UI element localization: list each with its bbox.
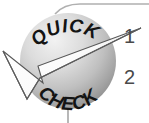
callout-label-2: 2	[124, 67, 135, 87]
quick-check-illustration: QUICK CHECK	[0, 0, 149, 123]
callout-label-1: 1	[124, 26, 135, 46]
quick-check-figure: QUICK CHECK 1 2	[0, 0, 149, 123]
top-curve-line	[55, 4, 149, 14]
